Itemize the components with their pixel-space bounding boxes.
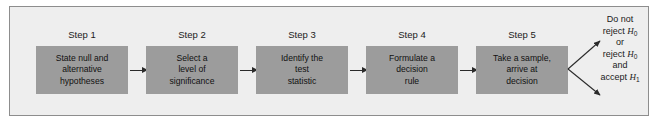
- conclusion-line-5: and: [592, 60, 648, 72]
- conclusion-text: Do not reject H0 or reject H0 and accept…: [592, 14, 648, 84]
- step-box-text-2: Select a level of significance: [168, 53, 217, 88]
- step-label-5: Step 5: [476, 29, 568, 40]
- conclusion-line-4-subscript: 0: [634, 53, 638, 60]
- step-box-line: decision: [389, 64, 435, 76]
- flowchart-figure: Step 1 State null and alternative hypoth…: [0, 0, 658, 125]
- step-label-3: Step 3: [256, 29, 348, 40]
- step-box-line: alternative: [56, 64, 109, 76]
- conclusion-line-1: Do not: [592, 14, 648, 26]
- conclusion-line-6-subscript: 1: [636, 76, 640, 83]
- step-box-line: significance: [170, 76, 215, 88]
- step-box-line: arrive at: [493, 64, 551, 76]
- step-box-text-5: Take a sample, arrive at decision: [491, 53, 553, 88]
- step-box-line: decision: [493, 76, 551, 88]
- step-box-1[interactable]: State null and alternative hypotheses: [36, 46, 128, 94]
- conclusion-line-6-symbol: H: [629, 72, 636, 82]
- step-box-line: level of: [170, 64, 215, 76]
- step-box-text-3: Identify the test statistic: [279, 53, 325, 88]
- conclusion-line-2-prefix: reject: [603, 26, 628, 36]
- step-label-1: Step 1: [36, 29, 128, 40]
- conclusion-line-6-prefix: accept: [600, 72, 629, 82]
- step-box-line: statistic: [281, 76, 323, 88]
- conclusion-line-3: or: [592, 37, 648, 49]
- conclusion-line-2: reject H0: [592, 26, 648, 38]
- step-box-line: Formulate a: [389, 53, 435, 65]
- conclusion-line-6: accept H1: [592, 72, 648, 84]
- step-box-2[interactable]: Select a level of significance: [146, 46, 238, 94]
- step-box-line: hypotheses: [56, 76, 109, 88]
- conclusion-line-2-symbol: H: [627, 26, 634, 36]
- step-box-line: Select a: [170, 53, 215, 65]
- flowchart-panel: Step 1 State null and alternative hypoth…: [9, 6, 649, 116]
- step-label-2: Step 2: [146, 29, 238, 40]
- step-box-4[interactable]: Formulate a decision rule: [366, 46, 458, 94]
- step-box-3[interactable]: Identify the test statistic: [256, 46, 348, 94]
- conclusion-line-4: reject H0: [592, 49, 648, 61]
- step-box-line: Identify the: [281, 53, 323, 65]
- conclusion-line-4-symbol: H: [627, 49, 634, 59]
- step-box-5[interactable]: Take a sample, arrive at decision: [476, 46, 568, 94]
- step-label-4: Step 4: [366, 29, 458, 40]
- step-box-text-1: State null and alternative hypotheses: [54, 53, 111, 88]
- conclusion-line-4-prefix: reject: [603, 49, 628, 59]
- step-box-line: test: [281, 64, 323, 76]
- conclusion-line-2-subscript: 0: [634, 30, 638, 37]
- step-box-line: Take a sample,: [493, 53, 551, 65]
- step-box-text-4: Formulate a decision rule: [387, 53, 437, 88]
- step-box-line: State null and: [56, 53, 109, 65]
- step-box-line: rule: [389, 76, 435, 88]
